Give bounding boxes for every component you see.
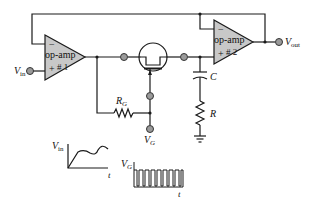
junction-vout — [263, 40, 266, 43]
vin-plot-xlabel: t — [108, 170, 111, 180]
circuit-diagram: − op-amp + # 1 − op-amp + # 2 Vin Vout R… — [0, 0, 313, 204]
mosfet-channel — [141, 57, 166, 65]
node-source — [181, 54, 188, 61]
vg-waveform-plot — [134, 162, 183, 187]
r-resistor — [196, 101, 204, 125]
vin-waveform-plot — [68, 144, 108, 168]
junction-cap — [198, 55, 201, 58]
opamp1-number: # 1 — [57, 62, 68, 72]
rg-branch-wire — [97, 57, 114, 113]
junction-opamp1-out — [95, 55, 98, 58]
vg-terminal — [147, 126, 154, 133]
vg-plot-pulses — [134, 170, 183, 187]
vg-plot-xlabel: t — [178, 189, 181, 199]
r-label: R — [209, 108, 216, 119]
rg-resistor — [114, 109, 133, 117]
node-gate — [147, 93, 154, 100]
opamp1-label: op-amp — [45, 49, 76, 60]
c-label: C — [210, 71, 217, 82]
opamp2-number: # 2 — [226, 47, 237, 57]
vg-plot-ylabel: VG — [121, 158, 132, 171]
vin-label: Vin — [14, 65, 26, 78]
node-drain — [121, 54, 128, 61]
vin-plot-curve — [68, 146, 108, 168]
vin-terminal — [27, 68, 34, 75]
junction-gate — [148, 111, 151, 114]
opamp2-minus-wire — [200, 14, 214, 29]
vout-label: Vout — [285, 36, 300, 49]
vin-plot-axes — [68, 144, 108, 168]
vin-plot-ylabel: Vin — [52, 140, 64, 153]
vg-label: VG — [144, 134, 155, 147]
opamp2-label: op-amp — [214, 34, 245, 45]
opamp1-plus: + — [49, 63, 55, 74]
rg-label: RG — [115, 95, 127, 108]
junction-top-feedback — [198, 12, 201, 15]
opamp2-plus: + — [218, 48, 224, 59]
vg-plot-axes — [134, 162, 183, 187]
vout-terminal — [276, 39, 283, 46]
